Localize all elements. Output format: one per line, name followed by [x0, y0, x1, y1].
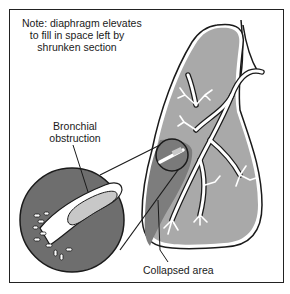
bronchial-line-2: obstruction	[40, 132, 110, 144]
bronchial-obstruction-label: Bronchial obstruction	[40, 120, 110, 144]
note-line-1: Note: diaphragm elevates	[22, 17, 132, 29]
note-line-3: shrunken section	[22, 41, 132, 53]
bronchial-line-1: Bronchial	[40, 120, 110, 132]
note-label: Note: diaphragm elevates to fill in spac…	[22, 17, 132, 53]
collapsed-area-label: Collapsed area	[143, 264, 214, 276]
collapsed-area-pointer	[160, 250, 168, 262]
trachea-line-outer	[243, 25, 258, 72]
note-line-2: to fill in space left by	[22, 29, 132, 41]
